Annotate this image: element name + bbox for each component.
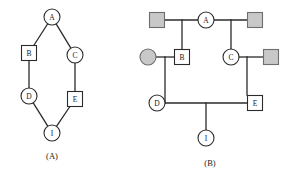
node-label-B: B	[26, 49, 31, 58]
panel-a: ABCDEI(A)	[21, 9, 83, 161]
node-panel-a-A[interactable]: A	[44, 9, 60, 25]
panel-b: ABCDEI(B)	[140, 12, 279, 168]
shaded-square-node[interactable]	[150, 13, 165, 28]
node-panel-a-B[interactable]: B	[22, 46, 37, 61]
node-label-C: C	[228, 53, 233, 62]
caption-panel-b: (B)	[204, 158, 216, 168]
node-panel-b-sq-top-right[interactable]	[248, 13, 263, 28]
node-panel-b-I[interactable]: I	[198, 130, 214, 146]
node-panel-a-D[interactable]: D	[21, 88, 37, 104]
shaded-circle-node[interactable]	[140, 49, 156, 65]
node-panel-a-I[interactable]: I	[44, 125, 60, 141]
node-panel-b-E[interactable]: E	[248, 96, 263, 111]
pedigree-figure: ABCDEI(A)ABCDEI(B)	[0, 0, 294, 176]
edge-D-I	[33, 103, 48, 126]
node-label-A: A	[49, 13, 55, 22]
node-panel-b-A[interactable]: A	[198, 12, 214, 28]
node-panel-b-C[interactable]: C	[223, 49, 239, 65]
node-panel-b-sq-top-left[interactable]	[150, 13, 165, 28]
edge-A-C	[56, 24, 71, 48]
node-panel-a-C[interactable]: C	[67, 47, 83, 63]
node-panel-a-E[interactable]: E	[68, 92, 83, 107]
node-label-A: A	[203, 16, 209, 25]
node-label-E: E	[73, 95, 78, 104]
node-panel-b-D[interactable]: D	[149, 95, 165, 111]
shaded-square-node[interactable]	[248, 13, 263, 28]
node-panel-b-B[interactable]: B	[175, 50, 190, 65]
node-panel-b-ci-mid-left[interactable]	[140, 49, 156, 65]
figure-canvas: ABCDEI(A)ABCDEI(B)	[0, 0, 294, 176]
node-label-B: B	[179, 53, 184, 62]
node-label-D: D	[26, 92, 32, 101]
caption-panel-a: (A)	[46, 151, 58, 161]
node-label-D: D	[154, 99, 160, 108]
edge-A-B	[34, 24, 48, 46]
edge-E-I	[56, 107, 69, 127]
node-label-C: C	[72, 51, 77, 60]
shaded-square-node[interactable]	[264, 50, 279, 65]
node-panel-b-sq-mid-right[interactable]	[264, 50, 279, 65]
node-label-E: E	[253, 99, 258, 108]
